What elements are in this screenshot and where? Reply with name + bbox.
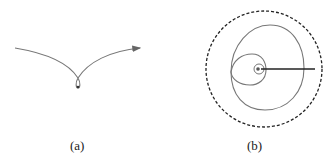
trajectory-curve bbox=[15, 48, 140, 88]
outer-loop-curve bbox=[231, 25, 304, 110]
panel-b-diagram bbox=[206, 11, 322, 127]
center-point bbox=[256, 67, 260, 71]
inner-loop-curve bbox=[231, 54, 266, 85]
panel-a-diagram bbox=[15, 48, 140, 88]
panel-a-label: (a) bbox=[70, 138, 84, 154]
figure-canvas bbox=[0, 0, 330, 162]
panel-b-label: (b) bbox=[247, 138, 262, 154]
trajectory-start-dot bbox=[77, 86, 80, 89]
